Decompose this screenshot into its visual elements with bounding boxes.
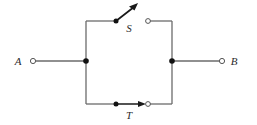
switch-s-contact-terminal [146, 19, 151, 24]
junction-left-node [83, 58, 89, 64]
switch-t-arrowhead [138, 101, 146, 107]
switch-s-blade[interactable] [116, 7, 134, 21]
switch-s[interactable] [114, 3, 151, 24]
terminal-a-label: A [14, 55, 22, 67]
terminal-b-label: B [231, 55, 238, 67]
switch-t-label: T [126, 109, 133, 121]
junction-right-node [169, 58, 175, 64]
switch-t-pivot-node [114, 102, 119, 107]
switch-s-pivot-node [114, 19, 119, 24]
switch-s-label: S [126, 22, 132, 34]
switch-t[interactable] [114, 101, 151, 107]
switch-t-contact-terminal [146, 102, 151, 107]
terminal-a-marker[interactable] [30, 58, 35, 63]
terminal-b-marker[interactable] [219, 58, 224, 63]
circuit-schematic: A B S T [0, 0, 257, 125]
circuit-diagram-figure: A B S T [0, 0, 257, 125]
